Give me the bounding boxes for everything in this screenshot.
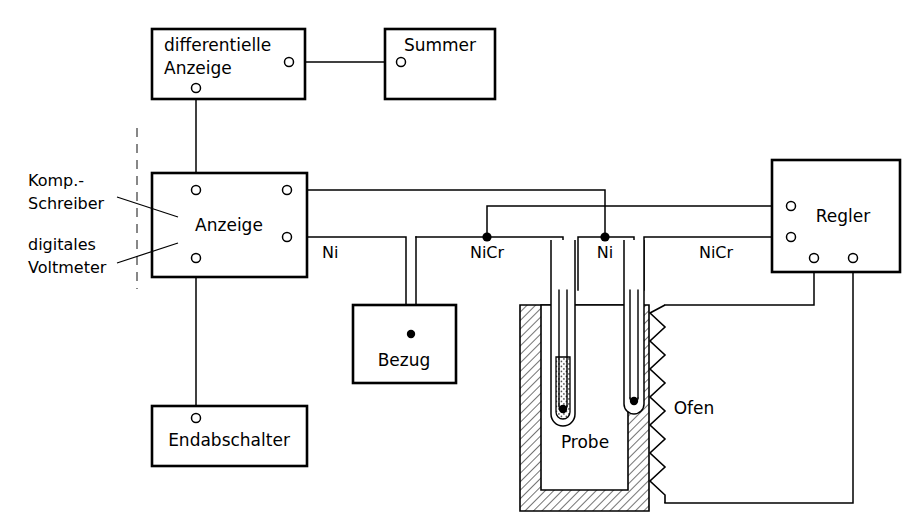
diagram-canvas: Probe Ofen differentielle Anzeige Summer… (0, 0, 917, 531)
controller-box[interactable]: Regler (772, 160, 900, 272)
digital-voltmeter-label-line1: digitales (28, 235, 96, 254)
komp-schreiber-label-line2: Schreiber (28, 194, 105, 213)
digital-voltmeter-label-line2: Voltmeter (28, 258, 107, 277)
differential-display-box[interactable]: differentielle Anzeige (152, 29, 305, 99)
wire-nicr-junction-to-controller-upper (487, 206, 791, 237)
wire-controller-to-heater-top (665, 272, 814, 305)
display-box[interactable]: Anzeige (152, 173, 307, 277)
display-terminal-right-upper[interactable] (283, 186, 292, 195)
buzzer-label: Summer (404, 35, 476, 55)
reference-frame (353, 305, 456, 383)
wire-label-nicr-right: NiCr (699, 243, 734, 262)
controller-terminal-bottom-right[interactable] (849, 254, 858, 263)
furnace-thermocouple-bead (630, 397, 638, 405)
display-terminal-top[interactable] (192, 186, 201, 195)
wire-label-ni-right: Ni (597, 243, 613, 262)
furnace-label: Ofen (674, 398, 715, 418)
buzzer-box[interactable]: Summer (385, 29, 495, 99)
differential-display-terminal-right[interactable] (285, 58, 294, 67)
reference-junction-bead (407, 330, 415, 338)
display-terminal-bottom[interactable] (192, 254, 201, 263)
differential-display-label-line2: Anzeige (164, 58, 232, 78)
wire-controller-to-heater-bottom (665, 272, 853, 503)
display-label: Anzeige (195, 215, 263, 235)
furnace-assembly: Probe Ofen (520, 240, 714, 511)
wire-display-upper-to-ni-junction (287, 190, 605, 237)
controller-terminal-bottom-left[interactable] (810, 254, 819, 263)
wire-label-ni-left: Ni (322, 243, 338, 262)
heater-coil (650, 305, 665, 503)
reference-label: Bezug (378, 350, 431, 370)
controller-terminal-left-lower[interactable] (787, 233, 796, 242)
limit-switch-box[interactable]: Endabschalter (152, 406, 307, 466)
komp-schreiber-label-line1: Komp.- (28, 171, 84, 190)
limit-switch-terminal-top[interactable] (192, 414, 201, 423)
differential-display-terminal-bottom[interactable] (192, 84, 201, 93)
controller-terminal-left-upper[interactable] (787, 202, 796, 211)
differential-display-label-line1: differentielle (164, 35, 271, 55)
limit-switch-label: Endabschalter (168, 430, 290, 450)
controller-label: Regler (816, 206, 870, 226)
reference-box[interactable]: Bezug (353, 305, 456, 383)
furnace-thermocouple-tube (624, 240, 644, 414)
sample-label: Probe (561, 432, 609, 452)
sample-thermocouple-bead (559, 405, 567, 413)
nicr-junction-dot (482, 232, 491, 241)
buzzer-terminal-left[interactable] (397, 58, 406, 67)
wire-label-nicr-middle: NiCr (470, 243, 505, 262)
ni-junction-dot (600, 232, 609, 241)
display-terminal-right-lower[interactable] (283, 233, 292, 242)
